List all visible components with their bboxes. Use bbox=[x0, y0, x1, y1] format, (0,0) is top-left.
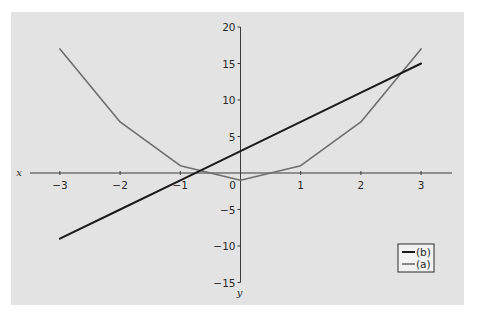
line-chart: −3−2−101232015105−5−10−15xy (b)(a) bbox=[0, 0, 478, 317]
x-tick-label: 0 bbox=[229, 179, 236, 191]
y-tick-label: 20 bbox=[222, 21, 235, 33]
axes: −3−2−101232015105−5−10−15xy bbox=[16, 21, 452, 298]
y-tick-label: 5 bbox=[229, 131, 236, 143]
y-tick-label: −10 bbox=[213, 240, 235, 252]
y-axis-label: y bbox=[236, 287, 243, 298]
x-tick-label: −3 bbox=[52, 179, 67, 191]
x-tick-label: −2 bbox=[112, 179, 127, 191]
x-axis-label: x bbox=[16, 167, 22, 178]
legend-label: (b) bbox=[416, 246, 431, 258]
x-tick-label: 2 bbox=[358, 179, 365, 191]
y-tick-label: 15 bbox=[222, 58, 235, 70]
legend-label: (a) bbox=[416, 258, 431, 270]
legend: (b)(a) bbox=[398, 244, 434, 272]
y-tick-label: −5 bbox=[220, 204, 235, 216]
x-tick-label: 3 bbox=[418, 179, 425, 191]
y-tick-label: 10 bbox=[222, 94, 235, 106]
y-tick-label: −15 bbox=[213, 277, 235, 289]
x-tick-label: 1 bbox=[297, 179, 304, 191]
